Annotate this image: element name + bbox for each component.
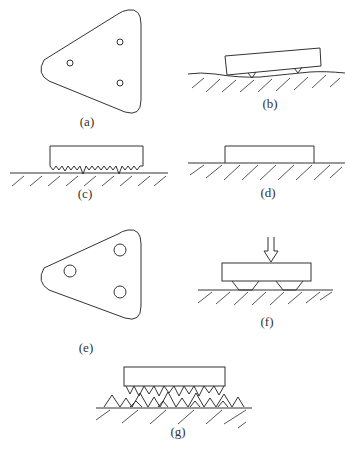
down-arrow-icon: [264, 237, 278, 262]
contact-point: [67, 60, 73, 66]
contact-area: [114, 286, 126, 298]
label-b: (b): [262, 96, 277, 112]
label-e: (e): [79, 340, 93, 356]
panel-g-interlocking: [96, 367, 252, 428]
label-a: (a): [80, 114, 94, 130]
contact-point: [117, 80, 123, 86]
label-c: (c): [78, 186, 92, 202]
contact-point: [117, 39, 123, 45]
panel-c-rough-block: [10, 146, 168, 186]
contact-area: [114, 244, 126, 256]
panel-d-flat-block: [188, 146, 345, 180]
panel-e-plate: [41, 230, 141, 319]
label-f: (f): [261, 314, 274, 330]
contact-diagram: [0, 0, 348, 450]
panel-f-loaded-block: [198, 237, 333, 305]
label-g: (g): [170, 424, 185, 440]
panel-a-plate: [41, 10, 141, 113]
panel-b-tilted-block: [188, 48, 345, 92]
label-d: (d): [260, 185, 275, 201]
contact-area: [64, 265, 76, 277]
